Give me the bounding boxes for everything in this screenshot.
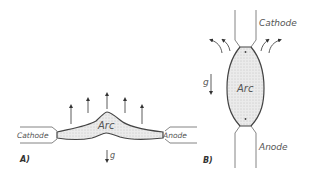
panel-a: g Arc Cathode Anode A) xyxy=(17,94,197,164)
cathode-label-a: Cathode xyxy=(17,131,49,140)
gravity-label-a: g xyxy=(110,151,115,160)
arc-diagram: g Arc Cathode Anode A) g Arc Ca xyxy=(0,0,314,178)
cathode-spot xyxy=(245,51,247,53)
anode-electrode-b xyxy=(235,126,256,168)
cathode-label-b: Cathode xyxy=(259,18,297,28)
panel-b: g Arc Cathode Anode B) xyxy=(203,10,297,168)
panel-label-b: B) xyxy=(203,156,213,165)
arc-label-b: Arc xyxy=(236,83,254,94)
panel-label-a: A) xyxy=(19,155,30,164)
arc-label-a: Arc xyxy=(97,120,115,131)
anode-label-a: Anode xyxy=(162,131,187,140)
gravity-label-b: g xyxy=(203,77,209,87)
anode-label-b: Anode xyxy=(258,142,288,152)
cathode-electrode-b xyxy=(235,10,256,47)
anode-spot xyxy=(245,118,247,120)
